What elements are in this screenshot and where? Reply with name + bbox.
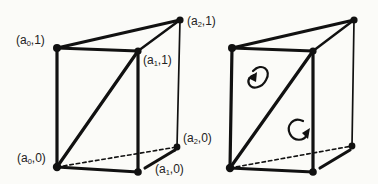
label-a0-0: (a0,0) — [17, 151, 46, 166]
edge-b0-0-to-b1-0 — [230, 168, 313, 172]
label-a1-1: (a1,1) — [143, 53, 172, 68]
right-prism — [226, 16, 358, 175]
edge-b0-0-to-b2-0 — [230, 146, 352, 168]
edge-a0-0-to-a1-0 — [57, 167, 138, 172]
edge-a0-1-to-a1-1 — [57, 48, 138, 51]
vertex-b0-1 — [228, 44, 236, 52]
vertex-a1-0 — [134, 168, 142, 176]
left-prism: (a0,1) (a1,1) (a2,1) (a0,0) (a1,0) (a2,0… — [16, 14, 216, 177]
vertex-a2-0 — [174, 144, 181, 151]
edge-a0-0-to-a1-1 — [57, 51, 138, 167]
vertex-a0-0 — [53, 163, 61, 171]
prism-diagram: (a0,1) (a1,1) (a2,1) (a0,0) (a1,0) (a2,0… — [0, 0, 378, 184]
label-a2-0: (a2,0) — [183, 131, 212, 146]
edge-b1-0-to-b2-0 — [320, 150, 350, 168]
vertex-b2-0 — [349, 143, 356, 150]
edge-b0-1-to-b0-0 — [230, 48, 232, 168]
label-a2-1: (a2,1) — [187, 14, 216, 29]
edge-b0-1-to-b1-1 — [232, 48, 313, 51]
edge-a2-1-to-a2-0 — [177, 20, 180, 147]
vertex-a2-1 — [176, 16, 183, 23]
clockwise-curl-icon — [289, 120, 310, 140]
counterclockwise-curl-icon — [248, 67, 268, 87]
edge-b0-0-to-b1-1 — [230, 51, 313, 168]
edge-b2-1-to-b2-0 — [352, 20, 354, 146]
vertex-a0-1 — [53, 44, 61, 52]
label-a1-0: (a1,0) — [155, 162, 184, 177]
vertex-b2-1 — [350, 16, 357, 23]
vertex-a1-1 — [134, 47, 141, 54]
vertex-b0-0 — [226, 164, 234, 172]
vertex-b1-0 — [309, 168, 317, 176]
label-a0-1: (a0,1) — [16, 33, 45, 48]
vertex-b1-1 — [309, 47, 316, 54]
